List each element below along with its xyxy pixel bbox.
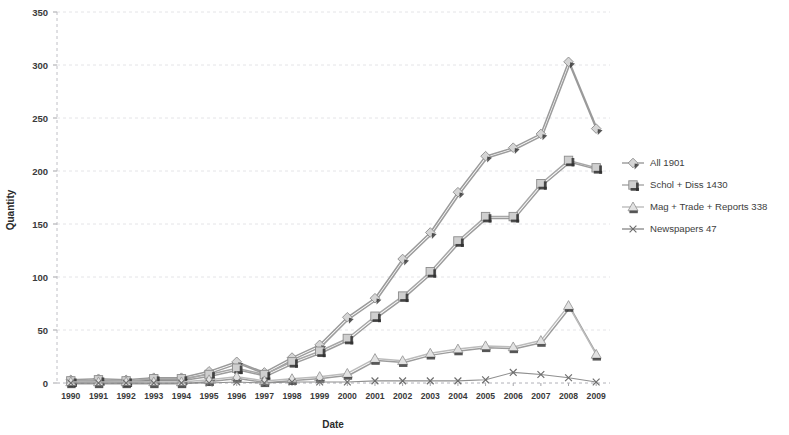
x-tick-label: 1993 bbox=[144, 391, 163, 401]
y-tick-label: 300 bbox=[32, 60, 48, 71]
x-tick-label: 2005 bbox=[476, 391, 495, 401]
square-marker-icon bbox=[537, 180, 547, 190]
legend-label: All 1901 bbox=[650, 157, 685, 168]
x-tick-label: 2002 bbox=[393, 391, 412, 401]
x-tick-label: 1999 bbox=[310, 391, 329, 401]
x-tick-label: 2001 bbox=[365, 391, 384, 401]
x-tick-label: 2003 bbox=[421, 391, 440, 401]
x-tick-label: 2008 bbox=[559, 391, 578, 401]
y-tick-label: 0 bbox=[43, 378, 48, 389]
legend-label: Mag + Trade + Reports 338 bbox=[650, 201, 767, 212]
x-tick-label: 1996 bbox=[227, 391, 246, 401]
x-tick-label: 2009 bbox=[587, 391, 606, 401]
square-marker-icon bbox=[398, 292, 408, 302]
x-tick-label: 1990 bbox=[61, 391, 80, 401]
square-marker-icon bbox=[371, 312, 381, 322]
x-tick-label: 2000 bbox=[338, 391, 357, 401]
chart-canvas: 050100150200250300350 199019911992199319… bbox=[0, 0, 789, 435]
square-marker-icon bbox=[629, 181, 639, 191]
x-tick-label: 2006 bbox=[504, 391, 523, 401]
square-marker-icon bbox=[509, 212, 519, 222]
square-marker-icon bbox=[564, 156, 574, 166]
x-tick-label: 1998 bbox=[282, 391, 301, 401]
y-tick-label: 200 bbox=[32, 166, 48, 177]
x-axis-title: Date bbox=[322, 419, 344, 430]
x-tick-label: 1995 bbox=[200, 391, 219, 401]
y-tick-label: 100 bbox=[32, 272, 48, 283]
y-axis-title: Quantity bbox=[5, 189, 16, 230]
y-tick-label: 250 bbox=[32, 113, 48, 124]
square-marker-icon bbox=[288, 358, 298, 368]
x-tick-label: 2007 bbox=[531, 391, 550, 401]
square-marker-icon bbox=[426, 268, 436, 278]
square-marker-icon bbox=[343, 334, 353, 344]
legend-label: Schol + Diss 1430 bbox=[650, 179, 728, 190]
y-tick-label: 150 bbox=[32, 219, 48, 230]
square-marker-icon bbox=[315, 347, 325, 357]
square-marker-icon bbox=[592, 164, 602, 174]
legend-label: Newspapers 47 bbox=[650, 223, 717, 234]
x-tick-label: 2004 bbox=[448, 391, 467, 401]
y-tick-label: 50 bbox=[37, 325, 48, 336]
square-marker-icon bbox=[454, 237, 464, 247]
y-tick-label: 350 bbox=[32, 7, 48, 18]
x-tick-label: 1997 bbox=[255, 391, 274, 401]
x-tick-label: 1992 bbox=[117, 391, 136, 401]
x-tick-label: 1991 bbox=[89, 391, 108, 401]
x-tick-label: 1994 bbox=[172, 391, 191, 401]
square-marker-icon bbox=[481, 212, 491, 222]
line-chart: 050100150200250300350 199019911992199319… bbox=[0, 0, 789, 435]
